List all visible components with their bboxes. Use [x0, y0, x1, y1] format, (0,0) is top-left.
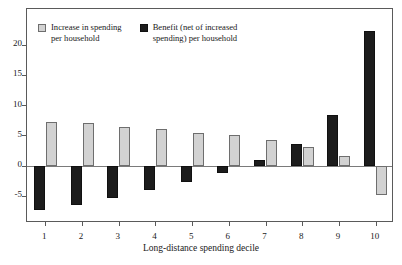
bar-increase-in-spending: [229, 135, 240, 165]
x-tick-label: 7: [254, 232, 276, 241]
y-tick: [22, 135, 27, 136]
x-tick-label: 2: [70, 232, 92, 241]
legend-item-benefit-net: Benefit (net of increased spending) per …: [140, 22, 238, 43]
y-tick: [22, 75, 27, 76]
x-tick-label: 5: [180, 232, 202, 241]
legend-swatch-light-icon: [38, 24, 46, 32]
y-tick-label: 10: [0, 100, 22, 109]
bar-increase-in-spending: [119, 127, 130, 166]
y-tick: [22, 45, 27, 46]
y-tick-label: 20: [0, 39, 22, 48]
bar-increase-in-spending: [266, 140, 277, 165]
legend: Increase in spending per household Benef…: [38, 22, 237, 43]
legend-swatch-dark-icon: [140, 24, 148, 32]
x-tick: [339, 221, 340, 226]
y-tick-label: -5: [0, 190, 22, 199]
x-tick-label: 9: [327, 232, 349, 241]
bar-benefit: [107, 166, 118, 198]
x-tick: [266, 221, 267, 226]
y-tick-label: 0: [0, 160, 22, 169]
x-tick: [302, 221, 303, 226]
bar-benefit: [254, 160, 265, 165]
legend-label: Benefit (net of increased spending) per …: [153, 22, 238, 43]
bar-benefit: [327, 115, 338, 165]
bar-increase-in-spending: [376, 166, 387, 195]
x-tick: [45, 221, 46, 226]
bar-increase-in-spending: [339, 156, 350, 166]
bar-increase-in-spending: [193, 133, 204, 166]
bar-benefit: [34, 166, 45, 211]
bar-increase-in-spending: [303, 147, 314, 165]
x-tick-label: 4: [143, 232, 165, 241]
y-tick-label: 5: [0, 130, 22, 139]
x-tick-label: 10: [364, 232, 386, 241]
x-tick-label: 1: [33, 232, 55, 241]
x-tick-label: 8: [290, 232, 312, 241]
legend-label: Increase in spending per household: [51, 22, 122, 43]
x-tick: [229, 221, 230, 226]
x-tick-label: 6: [217, 232, 239, 241]
bar-increase-in-spending: [46, 122, 57, 166]
bar-benefit: [217, 166, 228, 173]
x-tick: [119, 221, 120, 226]
bar-benefit: [364, 31, 375, 166]
x-tick: [192, 221, 193, 226]
x-tick: [376, 221, 377, 226]
bar-increase-in-spending: [83, 123, 94, 165]
bar-benefit: [181, 166, 192, 182]
bar-increase-in-spending: [156, 129, 167, 165]
y-tick-label: 15: [0, 69, 22, 78]
x-tick-label: 3: [107, 232, 129, 241]
x-tick: [155, 221, 156, 226]
bar-benefit: [144, 166, 155, 191]
bar-benefit: [291, 144, 302, 166]
x-axis-title: Long-distance spending decile: [0, 243, 402, 253]
y-tick: [22, 105, 27, 106]
zero-baseline: [27, 166, 392, 167]
x-tick: [82, 221, 83, 226]
figure: -505101520 12345678910 Long-distance spe…: [0, 0, 402, 265]
y-tick: [22, 166, 27, 167]
y-tick: [22, 196, 27, 197]
legend-item-increase-in-spending: Increase in spending per household: [38, 22, 122, 43]
bar-benefit: [71, 166, 82, 205]
